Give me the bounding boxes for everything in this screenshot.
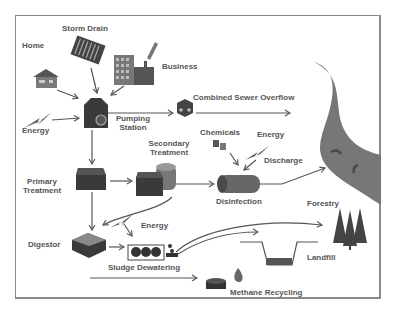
- diagram-canvas: [0, 0, 393, 314]
- label-business: Business: [162, 62, 198, 71]
- label-energy-1: Energy: [22, 126, 49, 135]
- home-icon: [33, 69, 59, 88]
- digestor-icon: [72, 233, 106, 258]
- primary-treatment-icon: [76, 168, 106, 190]
- business-icon: [114, 42, 158, 85]
- label-home: Home: [22, 41, 44, 50]
- forestry-icon: [333, 208, 367, 250]
- river-icon: [314, 62, 381, 205]
- label-sludge-dewatering: Sludge Dewatering: [108, 263, 180, 272]
- cso-icon: [177, 99, 193, 117]
- chemicals-icon: [213, 140, 226, 150]
- label-primary-treatment: Primary Treatment: [20, 177, 64, 195]
- label-secondary-treatment: Secondary Treatment: [146, 139, 192, 157]
- label-discharge: Discharge: [264, 156, 303, 165]
- label-pumping-station: Pumping Station: [115, 114, 151, 132]
- label-digestor: Digestor: [28, 240, 60, 249]
- pumping-station-icon: [84, 98, 108, 128]
- label-chemicals: Chemicals: [200, 128, 240, 137]
- sludge-dewatering-icon: [128, 244, 178, 260]
- label-forestry: Forestry: [307, 199, 339, 208]
- label-disinfection: Disinfection: [216, 197, 262, 206]
- methane-recycling-icon: [206, 268, 243, 289]
- label-energy-2: Energy: [257, 130, 284, 139]
- secondary-treatment-icon: [136, 163, 176, 196]
- label-cso: Combined Sewer Overflow: [193, 93, 294, 102]
- label-landfill: Landfill: [307, 253, 335, 262]
- label-methane-recycling: Methane Recycling: [230, 288, 302, 297]
- label-storm-drain: Storm Drain: [62, 24, 108, 33]
- disinfection-icon: [217, 175, 260, 193]
- label-energy-3: Energy: [141, 221, 168, 230]
- storm-drain-icon: [70, 35, 105, 64]
